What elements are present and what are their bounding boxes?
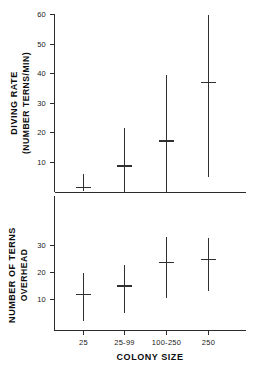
bottom-ticklabel-20: 20	[37, 268, 46, 277]
category-label-25: 25	[79, 338, 88, 347]
bottom-y-ticklabels: 30 20 10	[37, 241, 46, 304]
top-y-axis-title-line1: DIVING RATE	[9, 71, 19, 134]
bottom-y-axis-title-line1: NUMBER OF TERNS	[7, 227, 17, 323]
bottom-y-ticks	[50, 246, 55, 300]
top-y-axis-title: DIVING RATE (NUMBER TERNS/MIN)	[9, 52, 31, 154]
bottom-panel: 30 20 10	[7, 196, 246, 362]
bottom-datapoint-250	[201, 238, 216, 291]
top-datapoint-25	[76, 174, 91, 191]
bottom-datapoint-25-99	[117, 265, 132, 313]
top-y-ticks	[50, 15, 55, 163]
top-ticklabel-30: 30	[37, 99, 46, 108]
bottom-ticklabel-30: 30	[37, 241, 46, 250]
top-ticklabel-20: 20	[37, 128, 46, 137]
top-ticklabel-10: 10	[37, 158, 46, 167]
bottom-datapoint-25	[76, 273, 91, 321]
bottom-x-categorylabels: 25 25-99 100-250 250	[79, 338, 215, 347]
chart-svg: 60 50 40 30 20 10	[0, 0, 255, 368]
top-datapoint-250	[201, 15, 216, 177]
x-axis-title: COLONY SIZE	[117, 352, 184, 362]
top-ticklabel-50: 50	[37, 40, 46, 49]
category-label-25-99: 25-99	[114, 338, 135, 347]
top-y-ticklabels: 60 50 40 30 20 10	[37, 10, 46, 167]
category-label-100-250: 100-250	[152, 338, 182, 347]
top-datapoint-25-99	[117, 128, 132, 193]
bottom-y-axis-title-line2: OVERHEAD	[19, 249, 29, 302]
top-ticklabel-60: 60	[37, 10, 46, 19]
top-y-axis-title-line2: (NUMBER TERNS/MIN)	[21, 52, 31, 154]
bottom-datapoint-100-250	[159, 237, 174, 298]
top-ticklabel-40: 40	[37, 69, 46, 78]
figure-container: 60 50 40 30 20 10	[0, 0, 255, 368]
top-panel: 60 50 40 30 20 10	[9, 10, 246, 192]
bottom-x-ticks	[84, 331, 209, 336]
bottom-y-axis-title: NUMBER OF TERNS OVERHEAD	[7, 227, 29, 323]
top-datapoint-100-250	[159, 75, 174, 193]
category-label-250: 250	[202, 338, 215, 347]
bottom-ticklabel-10: 10	[37, 295, 46, 304]
